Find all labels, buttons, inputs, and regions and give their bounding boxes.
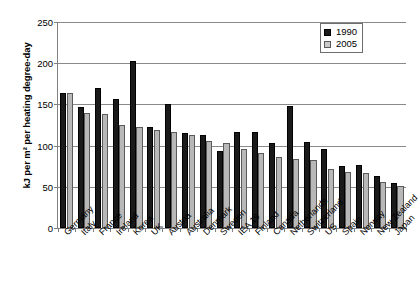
chart-legend: 1990 2005	[320, 23, 363, 53]
x-axis-labels: GermanyItalyFranceIrelandKoreaUKAustriaA…	[57, 230, 417, 304]
y-tick-label-100: 100	[37, 140, 53, 151]
bar-group	[391, 22, 404, 228]
bar-group	[200, 22, 213, 228]
bar-1990	[339, 166, 345, 228]
bar-group	[165, 22, 178, 228]
bar-1990	[130, 61, 136, 228]
bar-group	[269, 22, 282, 228]
bar-1990	[113, 99, 119, 228]
bar-2005	[102, 114, 108, 228]
bar-1990	[95, 88, 101, 228]
bar-chart: kJ per m² per heating degree-day 0501001…	[0, 0, 419, 304]
y-tick-label-250: 250	[37, 17, 53, 28]
gray-square-icon	[324, 41, 331, 48]
plot-area: 050100150200250	[57, 22, 406, 229]
legend-item-2005: 2005	[324, 38, 357, 50]
bar-group	[60, 22, 73, 228]
bar-group	[374, 22, 387, 228]
bar-2005	[171, 132, 177, 228]
bar-group	[252, 22, 265, 228]
bar-1990	[60, 93, 66, 228]
y-axis-title: kJ per m² per heating degree-day	[21, 16, 32, 216]
bar-group	[95, 22, 108, 228]
bar-group	[304, 22, 317, 228]
bar-group	[130, 22, 143, 228]
bar-group	[182, 22, 195, 228]
bar-group	[147, 22, 160, 228]
bar-group	[78, 22, 91, 228]
black-square-icon	[324, 29, 331, 36]
legend-label-2005: 2005	[336, 38, 357, 50]
bar-1990	[165, 104, 171, 228]
bar-group	[217, 22, 230, 228]
bar-group	[234, 22, 247, 228]
legend-label-1990: 1990	[336, 26, 357, 38]
bar-2005	[136, 127, 142, 228]
bar-group	[113, 22, 126, 228]
legend-item-1990: 1990	[324, 26, 357, 38]
y-tick-label-200: 200	[37, 58, 53, 69]
bar-2005	[67, 93, 73, 228]
y-tick-label-150: 150	[37, 99, 53, 110]
y-tick-label-50: 50	[42, 181, 53, 192]
bar-group	[287, 22, 300, 228]
y-tick-label-0: 0	[48, 223, 53, 234]
bar-2005	[154, 130, 160, 228]
